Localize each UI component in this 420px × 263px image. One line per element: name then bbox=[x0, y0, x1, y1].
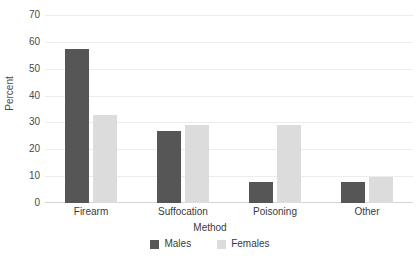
x-axis-tick-label: Firearm bbox=[74, 206, 108, 217]
gridline bbox=[45, 42, 413, 43]
x-axis-label: Method bbox=[0, 222, 420, 233]
bar-firearm-males bbox=[65, 49, 89, 203]
legend-label: Females bbox=[231, 239, 269, 249]
chart-title-clipped bbox=[0, 0, 420, 7]
plot-area bbox=[45, 15, 413, 203]
gridline bbox=[45, 69, 413, 70]
bar-suffocation-males bbox=[157, 131, 181, 203]
bar-suffocation-females bbox=[185, 125, 209, 203]
y-axis-label: Percent bbox=[4, 59, 15, 129]
legend-swatch-icon bbox=[217, 240, 226, 249]
legend-label: Males bbox=[164, 239, 191, 249]
x-axis-tick-label: Poisoning bbox=[253, 206, 297, 217]
bar-poisoning-males bbox=[249, 182, 273, 203]
bar-poisoning-females bbox=[277, 125, 301, 203]
legend-swatch-icon bbox=[150, 240, 159, 249]
gridline bbox=[45, 96, 413, 97]
y-axis-tick-label: 0 bbox=[6, 198, 40, 208]
bar-other-females bbox=[369, 177, 393, 203]
y-axis-tick-label: 10 bbox=[6, 171, 40, 181]
bar-firearm-females bbox=[93, 115, 117, 203]
x-axis-tick-label: Suffocation bbox=[158, 206, 208, 217]
legend-item-males: Males bbox=[150, 239, 191, 249]
bar-other-males bbox=[341, 182, 365, 203]
x-axis-ticks: FirearmSuffocationPoisoningOther bbox=[45, 206, 413, 222]
bar-chart: 010203040506070 Percent FirearmSuffocati… bbox=[0, 0, 420, 263]
chart-legend: MalesFemales bbox=[0, 239, 420, 249]
y-axis-tick-label: 60 bbox=[6, 37, 40, 47]
y-axis-tick-label: 20 bbox=[6, 144, 40, 154]
legend-item-females: Females bbox=[217, 239, 269, 249]
y-axis-tick-label: 70 bbox=[6, 10, 40, 20]
x-axis-tick-label: Other bbox=[354, 206, 379, 217]
gridline bbox=[45, 15, 413, 16]
